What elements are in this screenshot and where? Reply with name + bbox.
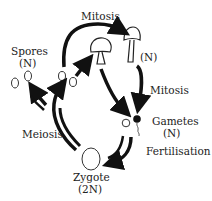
growth-arrow	[76, 62, 87, 76]
label-mushroom-ploidy: (N)	[140, 51, 157, 63]
mushroom-icon	[124, 27, 140, 62]
spore-cell	[12, 78, 19, 88]
gamete-arrow	[101, 69, 124, 110]
spore-cell	[25, 71, 32, 81]
label-gametes-ploidy: (N)	[163, 127, 180, 139]
gamete-cell	[122, 119, 130, 127]
label-mitosis-right: Mitosis	[150, 84, 189, 96]
fungal-life-cycle-diagram: Mitosis (N) Spores (N) Mitosis Gametes (…	[0, 0, 212, 201]
label-zygote-ploidy: (2N)	[78, 183, 102, 195]
label-fertilisation: Fertilisation	[146, 145, 211, 157]
label-meiosis: Meiosis	[22, 128, 63, 140]
label-gametes: Gametes	[152, 115, 199, 127]
mushroom-icon	[91, 38, 112, 64]
zygote-cell	[82, 148, 100, 170]
fertilisation-arrow-line	[108, 136, 123, 158]
mitosis-arrow	[137, 66, 141, 104]
spore-cell	[70, 78, 77, 87]
gamete-flagellum	[137, 123, 139, 136]
label-spores: Spores	[11, 45, 48, 57]
gamete-cell	[133, 115, 141, 123]
meiosis-arrow-line	[60, 108, 80, 146]
label-mitosis-top: Mitosis	[81, 10, 120, 22]
spore-cell	[59, 72, 66, 81]
meiosis-arrow	[54, 86, 76, 150]
label-zygote: Zygote	[73, 171, 110, 183]
label-spores-ploidy: (N)	[19, 57, 36, 69]
